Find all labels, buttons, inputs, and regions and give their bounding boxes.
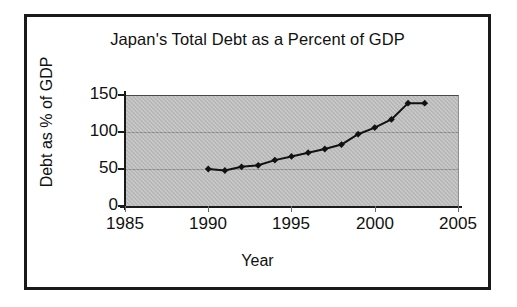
debt-series-line: [208, 103, 424, 170]
data-point: [205, 166, 212, 173]
data-point: [238, 163, 245, 170]
data-point: [222, 167, 229, 174]
data-point: [288, 153, 295, 160]
data-point: [305, 149, 312, 156]
data-point: [255, 162, 262, 169]
x-axis-title: Year: [27, 252, 488, 270]
data-point: [321, 146, 328, 153]
debt-series-markers: [205, 100, 428, 174]
data-point: [371, 124, 378, 131]
data-point: [271, 157, 278, 164]
data-point: [421, 100, 428, 107]
chart-figure: Japan's Total Debt as a Percent of GDP D…: [24, 14, 491, 290]
